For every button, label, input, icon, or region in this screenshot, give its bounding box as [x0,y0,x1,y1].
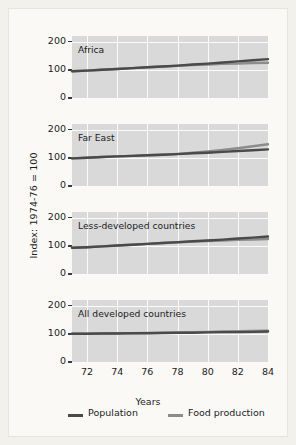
legend-swatch-food-production [168,414,183,417]
x-tick-label: 72 [76,366,98,377]
x-tick-label: 84 [257,366,279,377]
legend-label-population: Population [88,407,138,418]
x-tick-label: 80 [197,366,219,377]
x-axis-title: Years [0,396,296,407]
x-tick-label: 78 [167,366,189,377]
legend-label-food-production: Food production [188,407,265,418]
x-tick-label: 82 [227,366,249,377]
legend-swatch-population [68,414,83,417]
series-layer-4 [0,0,296,445]
multi-panel-line-chart: Index: 1974-76 = 100 0100200Africa010020… [0,0,296,445]
series-line-population [72,332,268,334]
x-tick-label: 74 [106,366,128,377]
x-tick-label: 76 [136,366,158,377]
